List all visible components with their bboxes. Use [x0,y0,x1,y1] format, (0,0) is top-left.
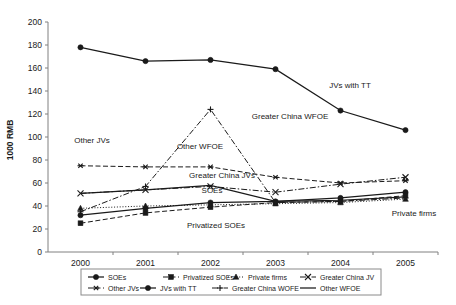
annotation-label: Private firms [392,209,436,218]
y-tick-label: 140 [28,86,42,96]
y-tick-label: 60 [33,178,43,188]
x-tick-label: 2002 [201,258,220,268]
legend-label: JVs with TT [160,285,197,292]
legend-label: Privatized SOEs [183,274,234,281]
legend-label: Greater China JV [320,274,374,281]
legend-label: Greater China WOFE [232,285,299,292]
y-tick-label: 80 [33,155,43,165]
annotation-label: Greater China JVs [189,171,255,180]
legend-item-jvs-with-tt[interactable]: JVs with TT [140,285,197,292]
x-tick-label: 2003 [266,258,285,268]
legend-label: Other WFOE [320,285,361,292]
x-tick-label: 2004 [331,258,350,268]
data-point [143,59,148,64]
legend-label: SOEs [108,274,127,281]
annotation-label: Other JVs [74,136,110,145]
y-tick-label: 160 [28,63,42,73]
annotation-label: SOEs [202,186,223,195]
chart-canvas: 020406080100120140160180200 200020012002… [0,0,456,305]
y-tick-label: 180 [28,40,42,50]
y-tick-label: 0 [37,247,42,257]
annotation-label: JVs with TT [329,81,371,90]
legend-label: Other JVs [108,285,140,292]
legend-swatch-marker [145,285,150,290]
legend-swatch-marker [93,274,98,279]
chart-background [0,0,456,305]
data-point [403,128,408,133]
x-tick-label: 2001 [136,258,155,268]
data-point [208,57,213,62]
legend-swatch-marker [169,275,174,280]
y-tick-label: 200 [28,17,42,27]
data-point [273,67,278,72]
y-tick-label: 20 [33,224,43,234]
annotation-label: Other WFOE [177,142,223,151]
x-tick-label: 2005 [396,258,415,268]
x-tick-label: 2000 [71,258,90,268]
data-point [78,45,83,50]
legend-label: Private firms [248,274,287,281]
y-tick-label: 120 [28,109,42,119]
y-tick-label: 100 [28,132,42,142]
data-point [78,221,83,226]
y-axis-title: 1000 RMB [5,120,15,161]
annotation-label: Greater China WFOE [252,112,328,121]
annotation-label: Privatized SOEs [187,221,245,230]
data-point [338,108,343,113]
chart-legend[interactable]: SOEsPrivatized SOEsPrivate firmsGreater … [81,269,381,295]
line-chart-figure: 020406080100120140160180200 200020012002… [0,0,456,305]
data-point [143,211,148,216]
y-tick-label: 40 [33,201,43,211]
